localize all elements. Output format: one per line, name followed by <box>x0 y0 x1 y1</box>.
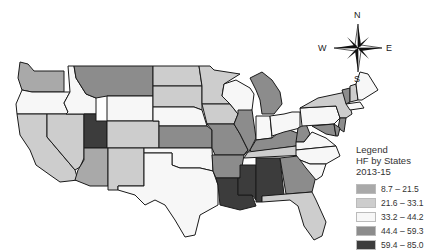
legend-item: 44.4 – 59.3 <box>356 225 440 236</box>
state-ms <box>238 165 256 200</box>
state-pa <box>300 106 340 126</box>
state-wy <box>107 96 153 121</box>
compass-south-label: S <box>354 74 360 84</box>
legend-swatch <box>356 226 376 236</box>
compass-east-label: E <box>386 43 392 53</box>
legend-swatch <box>356 198 376 208</box>
legend-item-label: 21.6 – 33.1 <box>381 198 424 208</box>
state-sd <box>153 86 202 110</box>
legend-item-label: 8.7 – 21.5 <box>381 184 419 194</box>
state-fl <box>262 192 326 240</box>
legend-swatch <box>356 184 376 194</box>
legend-item: 59.4 – 85.0 <box>356 239 440 250</box>
state-ar <box>212 155 244 178</box>
legend-item-label: 44.4 – 59.3 <box>381 226 424 236</box>
state-in <box>256 116 272 140</box>
state-ne <box>153 107 207 126</box>
legend: Legend HF by States 2013-15 8.7 – 21.5 2… <box>356 144 440 250</box>
state-mi <box>250 72 282 114</box>
legend-item: 21.6 – 33.1 <box>356 197 440 208</box>
legend-swatch <box>356 212 376 222</box>
legend-item-label: 33.2 – 44.2 <box>381 212 424 222</box>
state-mt <box>74 66 153 98</box>
state-ks <box>159 126 212 148</box>
state-co <box>107 121 159 148</box>
compass-rose: N S E W <box>318 12 398 84</box>
state-wa <box>18 62 64 92</box>
legend-subtitle: HF by States <box>356 155 440 166</box>
legend-item-label: 59.4 – 85.0 <box>381 240 424 250</box>
state-ma <box>346 102 364 110</box>
legend-swatch <box>356 240 376 250</box>
state-nm <box>108 148 144 190</box>
compass-north-label: N <box>354 10 361 20</box>
compass-west-label: W <box>318 43 327 53</box>
state-ut <box>84 114 107 148</box>
legend-item: 33.2 – 44.2 <box>356 211 440 222</box>
legend-title: Legend <box>356 144 440 155</box>
state-or <box>16 90 70 114</box>
legend-period: 2013-15 <box>356 166 440 177</box>
legend-item: 8.7 – 21.5 <box>356 183 440 194</box>
state-nd <box>153 66 202 86</box>
